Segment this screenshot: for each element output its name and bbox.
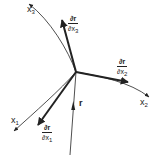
tangent-x3-den-sub: 3 bbox=[75, 28, 78, 34]
tangent-x3-denominator: ∂x3 bbox=[68, 24, 78, 34]
tangent-x2-den-var: ∂x bbox=[117, 68, 124, 75]
x3-sub: 3 bbox=[32, 9, 35, 15]
tangent-x1-numerator: ∂r bbox=[42, 124, 52, 133]
tangent-x1-label: ∂r ∂x1 bbox=[42, 124, 52, 143]
x2-axis-label: x2 bbox=[140, 98, 148, 108]
tangent-x3-numerator: ∂r bbox=[68, 15, 78, 24]
tangent-x3-den-var: ∂x bbox=[68, 25, 75, 32]
x1-axis-curve bbox=[14, 72, 76, 131]
position-vector-label: r bbox=[79, 99, 83, 108]
tangent-x2-den-sub: 2 bbox=[124, 71, 127, 77]
x1-sub: 1 bbox=[16, 120, 19, 126]
position-vector-line bbox=[70, 72, 76, 155]
tangent-x2-denominator: ∂x2 bbox=[117, 67, 127, 77]
tangent-x1-den-sub: 1 bbox=[49, 137, 52, 143]
x3-axis-label: x3 bbox=[27, 5, 35, 15]
x2-sub: 2 bbox=[145, 102, 148, 108]
tangent-x2-numerator: ∂r bbox=[117, 58, 127, 67]
tangent-x1-denominator: ∂x1 bbox=[42, 133, 52, 143]
tangent-x1-den-var: ∂x bbox=[42, 134, 49, 141]
tangent-x2-label: ∂r ∂x2 bbox=[117, 58, 127, 77]
position-vector-arrowhead bbox=[71, 101, 75, 110]
tangent-x3-label: ∂r ∂x3 bbox=[68, 15, 78, 34]
tangent-vector-x1-arrow bbox=[38, 72, 76, 125]
coordinate-diagram bbox=[0, 0, 162, 155]
x1-axis-label: x1 bbox=[11, 116, 19, 126]
x2-axis-curve bbox=[76, 72, 149, 97]
